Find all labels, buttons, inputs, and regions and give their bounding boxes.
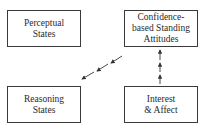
edges-layer: [0, 0, 205, 133]
arrow-down-left-icon: [82, 72, 94, 79]
edge-confidence-to-reasoning: [82, 56, 122, 79]
arrow-down-left-icon: [111, 56, 122, 63]
arrow-down-left-icon: [97, 64, 108, 71]
